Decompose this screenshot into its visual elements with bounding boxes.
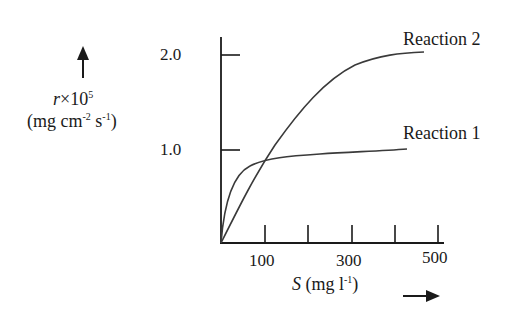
y-axis-unit: (mg cm-2 s-1) [27, 112, 117, 130]
y-axis-var: r [53, 89, 60, 109]
series-label-reaction-1: Reaction 1 [403, 124, 480, 142]
x-axis-var: S [292, 274, 301, 294]
y-tick-label-1: 1.0 [160, 141, 181, 158]
y-axis-label: r×105 [53, 90, 93, 108]
y-tick-label-2: 2.0 [160, 46, 181, 63]
y-unit-mid: s [91, 111, 103, 131]
y-unit-exp1: -2 [83, 111, 91, 122]
x-tick-label-300: 300 [336, 252, 362, 269]
y-unit-open: (mg cm [27, 111, 83, 131]
x-axis-label: S (mg l-1) [292, 275, 358, 293]
x-tick-label-500: 500 [422, 249, 448, 266]
y-axis-mult: ×10 [60, 89, 88, 109]
reaction-1-curve [221, 149, 407, 243]
y-axis-exp: 5 [88, 89, 93, 100]
y-arrow-icon [77, 46, 89, 78]
x-tick-label-100: 100 [249, 252, 275, 269]
series-label-reaction-2: Reaction 2 [403, 30, 480, 48]
reaction-2-curve [221, 52, 424, 243]
y-unit-exp2: -1 [102, 111, 110, 122]
x-unit-close: ) [352, 274, 358, 294]
x-unit-open: (mg l [301, 274, 344, 294]
y-unit-close: ) [111, 111, 117, 131]
x-arrow-icon [403, 290, 440, 302]
